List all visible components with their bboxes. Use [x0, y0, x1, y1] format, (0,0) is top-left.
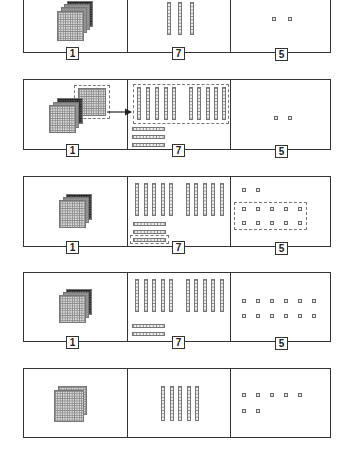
ten-rod: [161, 279, 165, 312]
ten-rod: [187, 386, 191, 421]
ten-rod: [189, 87, 193, 120]
ten-rod: [132, 127, 165, 131]
panel-step-1: [23, 0, 331, 53]
one-cube: [242, 299, 246, 303]
ten-rod: [214, 87, 218, 120]
one-cube: [284, 393, 288, 397]
column-divider: [230, 177, 231, 246]
one-cube: [270, 393, 274, 397]
column-divider: [230, 80, 231, 149]
ten-rod: [222, 87, 226, 120]
ten-rod: [190, 2, 194, 35]
one-cube: [312, 314, 316, 318]
panel-step-4: [23, 272, 331, 342]
one-cube: [256, 409, 260, 413]
one-cube: [298, 393, 302, 397]
ten-rod: [137, 87, 141, 120]
ten-rod: [133, 238, 166, 242]
ten-rod: [135, 183, 139, 216]
ten-rod: [144, 183, 148, 216]
column-divider: [230, 273, 231, 341]
ten-rod: [132, 135, 165, 139]
tens-label: 7: [172, 336, 185, 349]
ten-rod: [194, 183, 198, 216]
ten-rod: [164, 87, 168, 120]
one-cube: [256, 393, 260, 397]
ten-rod: [132, 324, 165, 328]
ten-rod: [203, 279, 207, 312]
one-cube: [270, 314, 274, 318]
column-divider: [127, 0, 128, 52]
one-cube: [284, 207, 288, 211]
ones-label: 5: [275, 48, 288, 61]
ten-rod: [152, 183, 156, 216]
ten-rod: [133, 230, 166, 234]
one-cube: [256, 221, 260, 225]
ten-rod: [167, 2, 171, 35]
column-divider: [127, 177, 128, 246]
one-cube: [288, 17, 292, 21]
column-divider: [127, 273, 128, 341]
ten-rod: [152, 279, 156, 312]
hundreds-label: 1: [66, 47, 79, 60]
ten-rod: [220, 279, 224, 312]
one-cube: [242, 314, 246, 318]
ten-rod: [146, 87, 150, 120]
one-cube: [242, 188, 246, 192]
one-cube: [284, 314, 288, 318]
ten-rod: [194, 279, 198, 312]
one-cube: [284, 299, 288, 303]
ten-rod: [169, 183, 173, 216]
ten-rod: [172, 87, 176, 120]
ten-rod: [186, 183, 190, 216]
one-cube: [242, 207, 246, 211]
panel-step-3: [23, 176, 331, 247]
ten-rod: [132, 143, 165, 147]
one-cube: [270, 207, 274, 211]
one-cube: [242, 393, 246, 397]
ten-rod: [220, 183, 224, 216]
hundred-flat: [57, 11, 84, 41]
ten-rod: [211, 279, 215, 312]
ten-rod: [155, 87, 159, 120]
panel-step-2: [23, 79, 331, 150]
hundreds-label: 1: [66, 336, 79, 349]
ten-rod: [195, 386, 199, 421]
ten-rod: [178, 2, 182, 35]
panel-step-5: [23, 368, 331, 438]
hundred-flat: [54, 390, 84, 422]
ten-rod: [132, 332, 165, 336]
column-divider: [127, 369, 128, 437]
one-cube: [288, 116, 292, 120]
column-divider: [127, 80, 128, 149]
hundreds-label: 1: [66, 144, 79, 157]
one-cube: [312, 299, 316, 303]
one-cube: [256, 314, 260, 318]
tens-label: 7: [172, 47, 185, 60]
ten-rod: [197, 87, 201, 120]
hundred-flat: [49, 105, 76, 133]
ten-rod: [186, 279, 190, 312]
ones-label: 5: [275, 242, 288, 255]
tens-label: 7: [172, 144, 185, 157]
one-cube: [298, 221, 302, 225]
ten-rod: [211, 183, 215, 216]
one-cube: [242, 409, 246, 413]
one-cube: [284, 221, 288, 225]
ten-rod: [170, 386, 174, 421]
ones-label: 5: [275, 145, 288, 158]
ten-rod: [144, 279, 148, 312]
ten-rod: [203, 183, 207, 216]
one-cube: [270, 299, 274, 303]
one-cube: [256, 299, 260, 303]
column-divider: [230, 0, 231, 52]
one-cube: [242, 221, 246, 225]
ten-rod: [161, 386, 165, 421]
ten-rod: [135, 279, 139, 312]
hundred-flat: [59, 200, 86, 228]
one-cube: [272, 17, 276, 21]
ten-rod: [178, 386, 182, 421]
ten-rod: [206, 87, 210, 120]
one-cube: [256, 188, 260, 192]
one-cube: [270, 221, 274, 225]
